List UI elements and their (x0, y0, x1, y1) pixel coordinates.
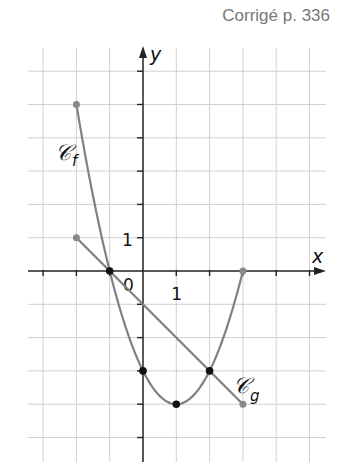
grid (28, 48, 326, 462)
curve-g-subscript: g (250, 387, 260, 405)
y-axis-arrow-icon (139, 46, 147, 58)
x-axis-arrow-icon (314, 267, 326, 275)
endpoint-dot (73, 234, 80, 241)
function-graph: yx110𝒞f𝒞g (0, 0, 344, 469)
curve-f (76, 105, 243, 405)
marked-point (106, 267, 114, 275)
curve-f-subscript: f (72, 152, 80, 170)
y-tick-label-1: 1 (122, 230, 133, 250)
marked-point (139, 367, 147, 375)
marked-point (173, 400, 181, 408)
y-axis-label: y (149, 43, 162, 65)
endpoint-dot (239, 268, 246, 275)
x-axis-label: x (311, 245, 324, 267)
endpoint-dot (239, 401, 246, 408)
x-tick-label-1: 1 (171, 284, 182, 304)
marked-point (206, 367, 214, 375)
line-g (76, 238, 243, 405)
endpoint-dot (73, 101, 80, 108)
